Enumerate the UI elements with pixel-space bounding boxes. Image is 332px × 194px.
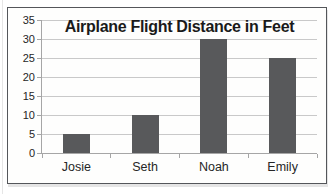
gridline-30: [42, 39, 317, 40]
y-axis-tick-30: [37, 39, 41, 40]
y-axis-label-10: 10: [10, 109, 35, 122]
y-axis-label-25: 25: [10, 52, 35, 65]
y-axis-tick-0: [37, 153, 41, 154]
x-axis-tick-2: [179, 154, 180, 158]
x-axis-tick-4: [317, 154, 318, 158]
y-axis-label-15: 15: [10, 90, 35, 103]
x-axis-tick-1: [110, 154, 111, 158]
y-axis-label-5: 5: [10, 128, 35, 141]
x-axis-tick-3: [248, 154, 249, 158]
plot-area: Airplane Flight Distance in Feet 0510152…: [41, 20, 317, 154]
y-axis-label-0: 0: [10, 147, 35, 160]
y-axis-tick-20: [37, 77, 41, 78]
y-axis-tick-5: [37, 134, 41, 135]
x-axis-label-josie: Josie: [42, 160, 111, 174]
x-axis-label-emily: Emily: [248, 160, 317, 174]
y-axis-label-20: 20: [10, 71, 35, 84]
y-axis-tick-25: [37, 58, 41, 59]
chart-title: Airplane Flight Distance in Feet: [28, 18, 331, 36]
y-axis-tick-10: [37, 115, 41, 116]
chart-frame: Airplane Flight Distance in Feet 0510152…: [7, 7, 327, 184]
bar-josie: [63, 134, 90, 153]
y-axis-tick-15: [37, 96, 41, 97]
bar-emily: [269, 58, 296, 153]
bar-seth: [132, 115, 159, 153]
worksheet-gridline: [2, 0, 3, 194]
x-axis-tick-0: [42, 154, 43, 158]
chart-screenshot-root: Airplane Flight Distance in Feet 0510152…: [0, 0, 332, 194]
x-axis-label-noah: Noah: [180, 160, 249, 174]
bar-noah: [200, 39, 227, 153]
x-axis-label-seth: Seth: [111, 160, 180, 174]
